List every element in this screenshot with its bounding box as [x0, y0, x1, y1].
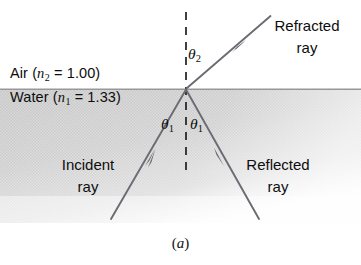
incident-ray-label: Incident ray — [42, 157, 134, 194]
refracted-ray-label-line2: ray — [258, 40, 356, 55]
incident-ray-label-line1: Incident — [42, 157, 134, 172]
reflected-ray-label-line1: Reflected — [232, 157, 324, 172]
air-index-value: 1.00 — [67, 65, 96, 81]
theta1-incident-subscript: 1 — [169, 123, 174, 134]
figure-caption: (a) — [0, 236, 361, 251]
theta1-reflected-subscript: 1 — [198, 123, 203, 134]
water-medium-label: Water (n1 = 1.33) — [10, 90, 121, 107]
air-index-subscript: 2 — [44, 72, 49, 83]
water-equals: = — [75, 89, 84, 105]
reflected-ray-label-line2: ray — [232, 179, 324, 194]
water-name: Water — [10, 89, 49, 105]
refracted-ray-label: Refracted ray — [258, 18, 356, 55]
incident-ray-label-line2: ray — [42, 179, 134, 194]
refracted-ray-label-line1: Refracted — [258, 18, 356, 33]
theta1-reflected-angle-label: θ1 — [190, 116, 203, 135]
theta2-angle-label: θ2 — [188, 46, 201, 65]
theta2-subscript: 2 — [196, 53, 201, 64]
water-index-value: 1.33 — [87, 89, 116, 105]
theta1-incident-glyph: θ — [161, 115, 169, 132]
water-index-symbol: n — [58, 89, 65, 105]
theta1-incident-angle-label: θ1 — [161, 116, 174, 135]
air-name: Air — [10, 65, 28, 81]
refraction-diagram: Air (n2 = 1.00) Water (n1 = 1.33) θ2 θ1 … — [0, 0, 361, 265]
air-paren-close: ) — [95, 65, 100, 81]
caption-close-paren: ) — [184, 235, 189, 251]
reflected-ray-label: Reflected ray — [232, 157, 324, 194]
air-equals: = — [54, 65, 63, 81]
theta1-reflected-glyph: θ — [190, 115, 198, 132]
air-medium-label: Air (n2 = 1.00) — [10, 66, 100, 83]
theta2-glyph: θ — [188, 45, 196, 62]
water-index-subscript: 1 — [65, 96, 70, 107]
water-paren-close: ) — [116, 89, 121, 105]
